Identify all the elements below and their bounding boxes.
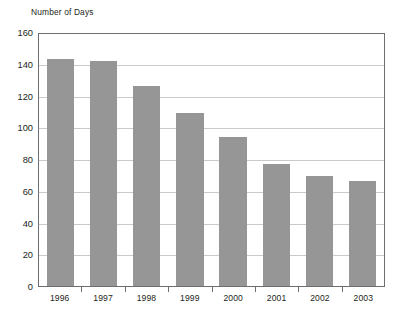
x-axis-tick <box>212 287 213 292</box>
x-axis-tick <box>342 287 343 292</box>
x-axis-tick-label: 2002 <box>298 293 341 303</box>
y-axis-tick-label: 20 <box>23 250 33 260</box>
bar-1997[interactable] <box>90 61 117 286</box>
y-axis-tick-label: 140 <box>17 60 33 70</box>
x-axis-ticks <box>38 287 385 292</box>
y-axis-tick-label: 160 <box>17 28 33 38</box>
bar-1996[interactable] <box>47 59 74 286</box>
bar-slot <box>255 34 298 286</box>
x-axis-tick <box>125 287 126 292</box>
bar-slot <box>82 34 125 286</box>
y-axis-tick-label: 0 <box>28 282 33 292</box>
bar-slot <box>125 34 168 286</box>
plot-area <box>38 33 385 287</box>
bar-slot <box>212 34 255 286</box>
x-axis-tick-label: 1996 <box>38 293 81 303</box>
x-axis-tick <box>298 287 299 292</box>
bar-slot <box>298 34 341 286</box>
x-axis-tick-label: 1998 <box>125 293 168 303</box>
y-axis-title: Number of Days <box>31 7 94 17</box>
bar-slot <box>341 34 384 286</box>
bar-2003[interactable] <box>349 181 376 286</box>
bar-2000[interactable] <box>219 137 246 286</box>
x-axis-tick-label: 2000 <box>212 293 255 303</box>
bar-chart-figure: Number of Days 160140120100806040200 199… <box>0 0 407 313</box>
y-axis-tick-labels: 160140120100806040200 <box>0 33 33 287</box>
y-axis-tick-label: 80 <box>23 155 33 165</box>
y-axis-tick-label: 120 <box>17 92 33 102</box>
x-axis-tick <box>168 287 169 292</box>
y-axis-tick-label: 60 <box>23 187 33 197</box>
x-axis-tick-label: 2001 <box>255 293 298 303</box>
bar-1998[interactable] <box>133 86 160 286</box>
bars-layer <box>39 34 384 286</box>
bar-slot <box>168 34 211 286</box>
x-axis-tick-labels: 19961997199819992000200120022003 <box>38 293 385 303</box>
bar-2002[interactable] <box>306 176 333 286</box>
x-axis-tick <box>255 287 256 292</box>
x-axis-tick-label: 1999 <box>168 293 211 303</box>
bar-1999[interactable] <box>176 113 203 286</box>
y-axis-tick-label: 40 <box>23 219 33 229</box>
x-axis-tick <box>81 287 82 292</box>
x-axis-tick-label: 1997 <box>81 293 124 303</box>
bar-2001[interactable] <box>263 164 290 286</box>
bar-slot <box>39 34 82 286</box>
x-axis-tick-label: 2003 <box>342 293 385 303</box>
y-axis-tick-label: 100 <box>17 123 33 133</box>
